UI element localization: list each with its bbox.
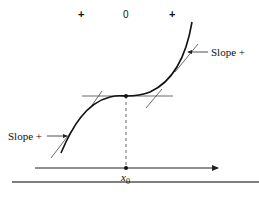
x0-axis-dot	[124, 166, 128, 170]
slope-left-label: Slope +	[8, 131, 42, 142]
x0-label-subscript: 0	[126, 177, 130, 186]
sign-middle: 0	[123, 9, 129, 20]
sign-left: +	[78, 9, 84, 20]
inflection-point-dot	[124, 94, 128, 98]
tangent-right-upper	[175, 44, 198, 72]
sign-right: +	[169, 9, 175, 20]
inflection-point-diagram	[0, 0, 259, 199]
x0-label: x0	[121, 172, 130, 187]
slope-right-label: Slope +	[211, 47, 245, 58]
cubic-curve	[61, 22, 192, 153]
